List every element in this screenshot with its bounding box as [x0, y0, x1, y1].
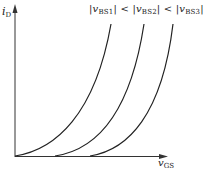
abs-bar: | [157, 3, 161, 14]
diagram-canvas [0, 0, 205, 174]
y-axis-subscript: D [6, 11, 12, 19]
abs-bar: | [200, 3, 204, 14]
legend-subscript-1: BS1 [98, 8, 113, 16]
curve-vbs2 [55, 24, 144, 156]
x-axis-subscript: GS [164, 162, 174, 170]
legend-subscript-2: BS2 [142, 8, 157, 16]
y-axis-arrow-icon [13, 4, 18, 13]
curve-vbs3 [90, 24, 173, 156]
less-than: < [120, 3, 129, 14]
curve-legend: |vBS1| < |vBS2| < |vBS3| [89, 3, 204, 16]
legend-subscript-3: BS3 [185, 8, 200, 16]
x-axis-label: vGS [158, 157, 174, 170]
abs-bar: | [113, 3, 117, 14]
less-than: < [164, 3, 173, 14]
y-axis-label: iD [2, 5, 11, 19]
transfer-characteristic-diagram: iD vGS |vBS1| < |vBS2| < |vBS3| [0, 0, 205, 174]
